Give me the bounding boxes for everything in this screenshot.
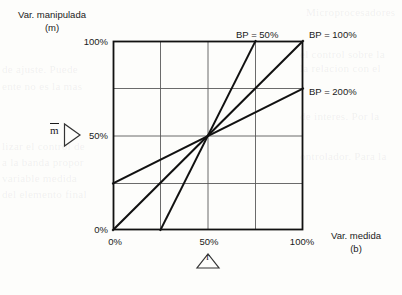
series-label-bp100: BP = 100% bbox=[309, 29, 357, 41]
x-tick-0: 0% bbox=[108, 236, 122, 247]
manipulated-variable-marker: m bbox=[50, 123, 59, 136]
x-tick-50: 50% bbox=[199, 236, 218, 247]
y-tick-0: 0% bbox=[74, 224, 108, 235]
setpoint-symbol: r bbox=[193, 251, 223, 262]
series-label-bp200: BP = 200% bbox=[309, 86, 357, 98]
setpoint-marker: r bbox=[193, 252, 223, 262]
manipulated-variable-symbol: m bbox=[50, 123, 59, 136]
y-tick-100: 100% bbox=[74, 36, 108, 47]
x-axis-tick-labels: 0% 50% 100% bbox=[0, 236, 402, 250]
y-tick-50: 50% bbox=[74, 130, 108, 141]
series-label-bp50: BP = 50% bbox=[236, 29, 278, 41]
x-tick-100: 100% bbox=[290, 236, 314, 247]
y-axis-tick-labels: 100% 50% 0% bbox=[74, 0, 108, 295]
